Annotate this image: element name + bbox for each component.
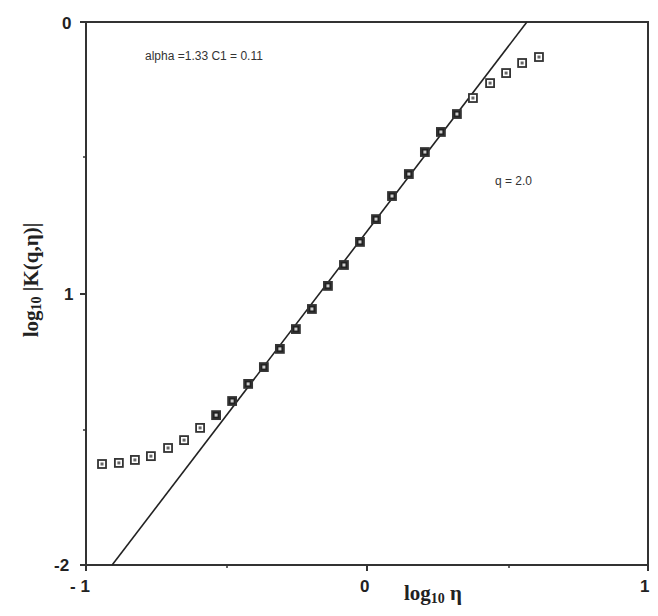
data-point bbox=[260, 363, 268, 371]
data-point bbox=[276, 345, 284, 353]
data-point bbox=[308, 305, 316, 313]
annotation-q: q = 2.0 bbox=[495, 174, 532, 188]
data-point bbox=[518, 59, 526, 67]
x-tick-label-neg1: - 1 bbox=[70, 577, 90, 596]
data-point bbox=[421, 148, 429, 156]
data-point bbox=[98, 460, 106, 468]
annotation-alpha-c1: alpha =1.33 C1 = 0.11 bbox=[145, 49, 263, 63]
data-point bbox=[486, 79, 494, 87]
data-point bbox=[502, 69, 510, 77]
data-point bbox=[437, 128, 445, 136]
chart: 0 1 -2 - 1 0 1 log10 η log10 |K(q,η)| al… bbox=[0, 0, 658, 616]
y-tick-label-2: -2 bbox=[54, 556, 69, 575]
x-axis-title: log10 η bbox=[404, 581, 462, 606]
data-point bbox=[535, 53, 543, 61]
data-point bbox=[356, 238, 364, 246]
data-point bbox=[131, 456, 139, 464]
y-tick-label-0: 0 bbox=[62, 14, 71, 33]
plot-frame bbox=[86, 22, 648, 565]
data-point bbox=[469, 94, 477, 102]
data-point bbox=[244, 380, 252, 388]
y-tick-label-1: 1 bbox=[64, 285, 73, 304]
fit-line-segment bbox=[112, 22, 527, 565]
data-point bbox=[405, 170, 413, 178]
data-point bbox=[372, 215, 380, 223]
data-point bbox=[180, 436, 188, 444]
x-tick-label-0: 0 bbox=[360, 577, 369, 596]
data-point bbox=[453, 110, 461, 118]
y-axis-title: log10 |K(q,η)| bbox=[19, 223, 44, 338]
fit-line bbox=[112, 22, 527, 565]
data-points bbox=[98, 53, 543, 468]
data-point bbox=[292, 325, 300, 333]
data-point bbox=[388, 192, 396, 200]
data-point bbox=[228, 397, 236, 405]
data-point bbox=[340, 261, 348, 269]
x-tick-label-1: 1 bbox=[640, 577, 649, 596]
data-point bbox=[164, 444, 172, 452]
data-point bbox=[115, 459, 123, 467]
data-point bbox=[212, 411, 220, 419]
data-point bbox=[324, 282, 332, 290]
data-point bbox=[147, 452, 155, 460]
data-point bbox=[196, 424, 204, 432]
